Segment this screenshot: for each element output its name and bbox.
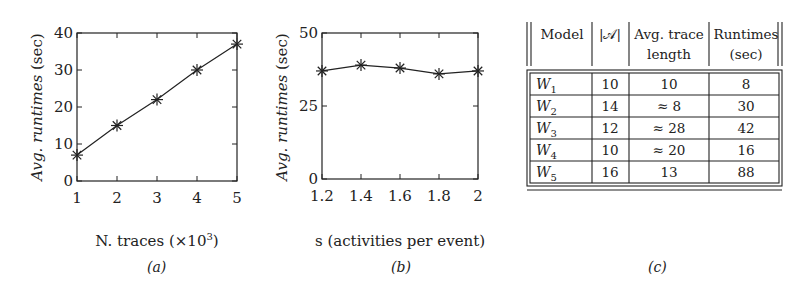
header-model: Model — [541, 26, 584, 42]
y-axis-label: Avg. runtimes (sec) — [273, 33, 291, 182]
table-cell-avg-trace: 10 — [660, 76, 677, 92]
table-cell-activities: 14 — [601, 98, 618, 114]
x-tick-label: 3 — [152, 189, 162, 207]
chart-a: 12345010203040 N. traces (×103) Avg. run… — [0, 0, 270, 295]
header-runtimes: Runtimes — [713, 26, 778, 42]
table-cell-runtime: 8 — [742, 76, 751, 92]
table-cell-activities: 10 — [601, 76, 618, 92]
table-cell-runtime: 30 — [737, 98, 754, 114]
data-point-marker — [191, 64, 203, 76]
y-tick-label: 0 — [308, 170, 318, 188]
x-tick-label: 1.4 — [349, 187, 373, 205]
table-cell-model: W2 — [536, 98, 557, 117]
plot-frame — [322, 33, 478, 179]
y-tick-label: 25 — [299, 97, 318, 115]
table-cell-activities: 16 — [601, 164, 618, 180]
x-axis-label: N. traces (×103) — [95, 231, 218, 250]
x-tick-label: 1.2 — [310, 187, 334, 205]
x-tick-label: 2 — [112, 189, 122, 207]
y-tick-label: 30 — [54, 61, 73, 79]
data-point-marker — [472, 65, 484, 77]
table-cell-runtime: 42 — [737, 120, 754, 136]
table-cell-avg-trace: 13 — [660, 164, 677, 180]
y-tick-label: 0 — [63, 172, 73, 190]
x-tick-label: 1 — [72, 189, 82, 207]
data-point-marker — [355, 59, 367, 71]
x-tick-label: 1.6 — [388, 187, 412, 205]
x-tick-label: 1.8 — [427, 187, 451, 205]
results-table: Model|𝒜|Avg. tracelengthRuntimes(sec)W11… — [526, 22, 796, 206]
data-point-marker — [231, 38, 243, 50]
x-tick-label: 4 — [192, 189, 202, 207]
table-cell-activities: 12 — [601, 120, 618, 136]
chart-b: 1.21.41.61.8202550 s (activities per eve… — [265, 0, 535, 295]
header-activities: |𝒜| — [599, 26, 621, 42]
table-cell-activities: 10 — [601, 142, 618, 158]
table-cell-avg-trace: ≈ 8 — [657, 98, 681, 114]
table-cell-avg-trace: ≈ 28 — [653, 120, 686, 136]
data-point-marker — [151, 94, 163, 106]
header-runtimes-line2: (sec) — [729, 46, 762, 62]
table-cell-model: W3 — [536, 120, 557, 139]
table-cell-avg-trace: ≈ 20 — [653, 142, 686, 158]
data-point-marker — [71, 149, 83, 161]
table-grid: Model|𝒜|Avg. tracelengthRuntimes(sec)W11… — [526, 22, 796, 202]
data-point-marker — [433, 68, 445, 80]
data-point-marker — [111, 120, 123, 132]
table-cell-runtime: 88 — [737, 164, 754, 180]
table-cell-runtime: 16 — [737, 142, 754, 158]
table-cell-model: W5 — [536, 164, 557, 183]
data-point-marker — [394, 62, 406, 74]
y-tick-label: 10 — [54, 135, 73, 153]
plot-frame — [77, 33, 237, 181]
caption-a: (a) — [147, 259, 166, 275]
x-axis-label: s (activities per event) — [315, 232, 485, 250]
x-tick-label: 2 — [473, 187, 483, 205]
y-tick-label: 50 — [299, 24, 318, 42]
caption-c: (c) — [648, 259, 667, 275]
data-point-marker — [316, 65, 328, 77]
header-avg-trace-line2: length — [647, 46, 691, 62]
table-cell-model: W1 — [536, 76, 557, 95]
y-tick-label: 20 — [54, 98, 73, 116]
header-avg-trace: Avg. trace — [633, 26, 704, 42]
x-tick-label: 5 — [232, 189, 242, 207]
y-tick-label: 40 — [54, 24, 73, 42]
caption-b: (b) — [391, 259, 411, 275]
table-cell-model: W4 — [536, 142, 557, 161]
y-axis-label: Avg. runtimes (sec) — [28, 33, 46, 182]
